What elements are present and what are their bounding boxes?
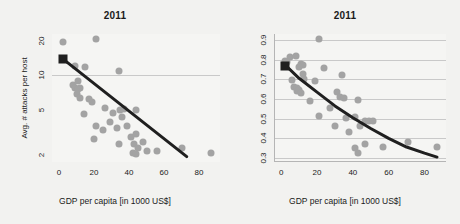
x-tick-label: 40: [125, 168, 134, 177]
scatter-point: [351, 113, 358, 120]
scatter-point: [110, 109, 117, 116]
scatter-point: [339, 72, 346, 79]
gridline: [274, 158, 446, 159]
scatter-point: [113, 124, 120, 131]
y-tick-label: 20: [37, 36, 46, 45]
scatter-point: [106, 119, 113, 126]
scatter-point: [133, 130, 140, 137]
y-tick-label: 2: [37, 153, 46, 157]
scatter-point: [178, 145, 185, 152]
scatter-point: [292, 52, 299, 59]
scatter-point: [342, 114, 349, 121]
chart-panel-left: 2011 Avg. # attacks per host 020406080 G…: [0, 0, 230, 224]
scatter-point: [321, 65, 328, 72]
scatter-point: [331, 122, 338, 129]
scatter-point: [59, 39, 66, 46]
scatter-point: [326, 104, 333, 111]
scatter-point: [301, 76, 308, 83]
scatter-point: [380, 144, 387, 151]
scatter-point: [357, 122, 364, 129]
y-tick-label: 10: [37, 71, 46, 80]
scatter-point: [351, 145, 358, 152]
scatter-point: [208, 149, 215, 156]
scatter-point: [92, 35, 99, 42]
chart-panel-right: 2011 % attacked hosts 020406080 GDP per …: [230, 0, 460, 224]
x-tick-label: 60: [160, 168, 169, 177]
fit-origin-marker: [280, 61, 289, 70]
y-tick-label: 0.3: [259, 152, 268, 163]
figure-two-panel-scatter: 2011 Avg. # attacks per host 020406080 G…: [0, 0, 460, 224]
x-tick-label: 0: [279, 168, 283, 177]
gridline: [274, 79, 446, 80]
scatter-point: [346, 129, 353, 136]
x-tick-label: 20: [313, 168, 322, 177]
y-tick-label: 0.6: [259, 93, 268, 104]
scatter-point: [101, 104, 108, 111]
y-tick-label: 5: [37, 108, 46, 112]
scatter-point: [405, 139, 412, 146]
scatter-point: [115, 67, 122, 74]
scatter-point: [124, 123, 131, 130]
y-tick-label: 0.8: [259, 54, 268, 65]
gridline: [274, 119, 446, 120]
scatter-point: [154, 147, 161, 154]
x-axis-line: [274, 161, 446, 162]
scatter-point: [115, 141, 122, 148]
scatter-point: [140, 139, 147, 146]
x-axis-label-left: GDP per capita [in 1000 US$]: [0, 196, 230, 206]
scatter-point: [120, 105, 127, 112]
scatter-point: [143, 147, 150, 154]
scatter-point: [312, 78, 319, 85]
fit-origin-marker: [58, 54, 67, 63]
plot-area-left: [52, 34, 220, 162]
y-tick-label: 0.4: [259, 133, 268, 144]
panel-left-title: 2011: [0, 10, 230, 21]
x-tick-label: 0: [57, 168, 61, 177]
x-axis-label-right: GDP per capita [in 1000 US$]: [230, 196, 460, 206]
scatter-point: [85, 96, 92, 103]
scatter-point: [315, 112, 322, 119]
scatter-point: [80, 110, 87, 117]
scatter-point: [434, 144, 441, 151]
y-axis-label-left: Avg. # attacks per host: [20, 57, 29, 138]
scatter-point: [75, 77, 82, 84]
scatter-point: [355, 96, 362, 103]
scatter-point: [77, 95, 84, 102]
scatter-point: [315, 35, 322, 42]
scatter-point: [99, 127, 106, 134]
y-tick-label: 0.7: [259, 74, 268, 85]
x-tick-label: 60: [384, 168, 393, 177]
gridline: [274, 40, 446, 41]
plot-area-right: [274, 34, 446, 162]
x-tick-label: 80: [420, 168, 429, 177]
scatter-point: [119, 114, 126, 121]
y-axis-line: [274, 34, 275, 162]
x-axis-ticks-right: 020406080: [230, 168, 460, 180]
x-axis-ticks-left: 020406080: [0, 168, 230, 180]
gridline: [274, 138, 446, 139]
scatter-point: [369, 117, 376, 124]
y-tick-label: 0.5: [259, 113, 268, 124]
scatter-point: [71, 63, 78, 70]
x-tick-label: 40: [348, 168, 357, 177]
panel-right-title: 2011: [230, 10, 460, 21]
scatter-point: [306, 97, 313, 104]
scatter-point: [82, 64, 89, 71]
x-tick-label: 80: [195, 168, 204, 177]
scatter-point: [340, 95, 347, 102]
scatter-point: [133, 106, 140, 113]
scatter-point: [91, 135, 98, 142]
scatter-point: [297, 90, 304, 97]
y-tick-label: 0.9: [259, 34, 268, 45]
scatter-point: [133, 151, 140, 158]
scatter-point: [288, 77, 295, 84]
x-tick-label: 20: [90, 168, 99, 177]
scatter-point: [362, 141, 369, 148]
scatter-point: [92, 123, 99, 130]
